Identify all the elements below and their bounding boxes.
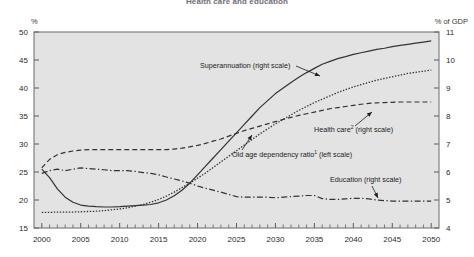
y-right-tick-label: 9 [446, 84, 451, 93]
y-right-tick-label: 11 [446, 28, 455, 37]
x-tick-label: 2030 [267, 235, 285, 244]
x-tick-label: 2035 [305, 235, 323, 244]
y-right-tick-label: 6 [446, 168, 451, 177]
health-care-label: Health care2 (right scale) [314, 124, 393, 134]
y-axis-left-labels: 1520253035404550 [19, 28, 28, 233]
x-tick-label: 2015 [150, 235, 168, 244]
x-tick-label: 2040 [344, 235, 362, 244]
y-left-tick-label: 30 [19, 140, 28, 149]
y-left-tick-label: 50 [19, 28, 28, 37]
x-tick-label: 2050 [422, 235, 440, 244]
y-right-tick-label: 10 [446, 56, 455, 65]
y-left-tick-label: 45 [19, 56, 28, 65]
y-right-tick-label: 8 [446, 112, 451, 121]
y-left-tick-label: 40 [19, 84, 28, 93]
y-right-tick-label: 4 [446, 224, 451, 233]
y-left-tick-label: 20 [19, 196, 28, 205]
y-left-tick-label: 15 [19, 224, 28, 233]
chart-plot: 1520253035404550 4567891011 200020052010… [0, 0, 474, 257]
x-tick-label: 2010 [111, 235, 129, 244]
education-label: Education (right scale) [330, 175, 402, 184]
superannuation-label: Superannuation (right scale) [200, 61, 290, 70]
y-right-tick-label: 5 [446, 196, 451, 205]
x-tick-label: 2000 [33, 235, 51, 244]
chart-figure: Health care and education % % of GDP 152… [0, 0, 474, 257]
y-right-tick-label: 7 [446, 140, 451, 149]
x-tick-label: 2005 [72, 235, 90, 244]
y-left-tick-label: 25 [19, 168, 28, 177]
x-tick-label: 2025 [228, 235, 246, 244]
x-tick-label: 2045 [383, 235, 401, 244]
y-left-tick-label: 35 [19, 112, 28, 121]
x-tick-label: 2020 [189, 235, 207, 244]
old-age-dependency-label: Old age dependency ratio1 (left scale) [232, 149, 352, 159]
x-axis-labels: 2000200520102015202020252030203520402045… [33, 235, 441, 244]
y-axis-right-labels: 4567891011 [446, 28, 455, 233]
